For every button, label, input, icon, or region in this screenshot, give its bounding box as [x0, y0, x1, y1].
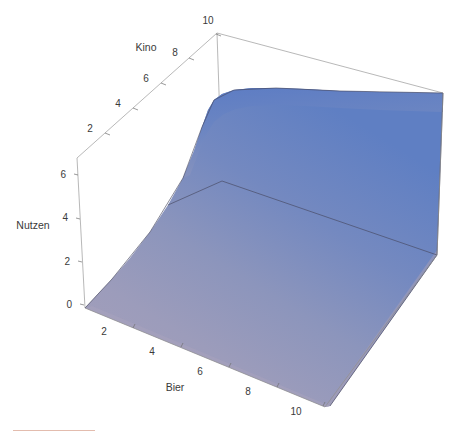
tick-marks-kino [105, 34, 221, 135]
tick-label-kino-6: 6 [143, 73, 149, 84]
tick-labels-kino: 2 4 6 8 10 [87, 15, 214, 134]
tick-label-nutzen-6: 6 [60, 169, 66, 180]
tick-labels-nutzen: 0 2 4 6 [60, 169, 72, 310]
box-edge-z-left [77, 158, 85, 308]
tick-label-bier-10: 10 [290, 406, 302, 417]
tick-label-kino-4: 4 [115, 98, 121, 109]
tick-label-kino-2: 2 [87, 123, 93, 134]
surface-mesh [85, 88, 443, 407]
axis-label-nutzen: Nutzen [16, 219, 49, 231]
footer-rule [13, 430, 95, 432]
tick-label-nutzen-4: 4 [62, 212, 68, 223]
box-edge-bier-top-back [217, 33, 443, 93]
tick-label-bier-8: 8 [245, 386, 251, 397]
tick-label-kino-8: 8 [172, 47, 178, 58]
tick-label-bier-2: 2 [101, 326, 107, 337]
axis-label-bier: Bier [166, 381, 185, 393]
surface-plot-figure: 2 4 6 8 10 2 4 6 8 10 0 2 4 6 Kino Nutze… [0, 0, 457, 438]
tick-label-bier-6: 6 [197, 366, 203, 377]
surface-top-sheet [85, 88, 443, 407]
axis-label-kino: Kino [135, 41, 156, 53]
tick-label-kino-10: 10 [202, 15, 214, 26]
tick-label-bier-4: 4 [149, 346, 155, 357]
tick-label-nutzen-0: 0 [66, 299, 72, 310]
tick-label-nutzen-2: 2 [64, 256, 70, 267]
plot-canvas: 2 4 6 8 10 2 4 6 8 10 0 2 4 6 Kino Nutze… [0, 0, 457, 438]
